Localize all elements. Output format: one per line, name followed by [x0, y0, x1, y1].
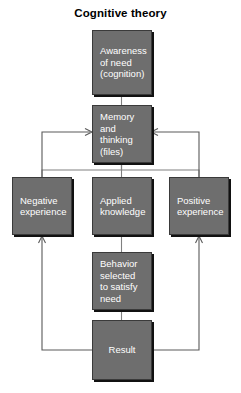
node-applied-label: Applied knowledge — [100, 195, 145, 218]
node-memory-label: Memory and thinking (files) — [100, 111, 134, 157]
node-result-label: Result — [109, 344, 136, 356]
node-applied-knowledge[interactable]: Applied knowledge — [92, 177, 152, 235]
node-memory-and-thinking[interactable]: Memory and thinking (files) — [92, 105, 152, 163]
cognitive-theory-diagram: Cognitive theory Awareness of need (cogn… — [0, 0, 241, 393]
node-behavior-label: Behavior selected to satisfy need — [100, 258, 138, 304]
node-positive-label: Positive experience — [177, 195, 223, 218]
node-negative-experience[interactable]: Negative experience — [12, 177, 72, 235]
arrowhead-negative-bottom — [39, 236, 46, 243]
node-positive-experience[interactable]: Positive experience — [169, 177, 229, 235]
edge-result-to-negative — [42, 237, 92, 350]
edge-memory-to-negative — [42, 163, 122, 177]
arrowhead-positive-bottom — [196, 236, 203, 243]
edge-memory-to-positive — [122, 163, 200, 177]
edge-negative-to-memory — [42, 132, 90, 177]
diagram-title: Cognitive theory — [0, 7, 241, 19]
node-awareness-label: Awareness of need (cognition) — [100, 45, 147, 80]
edge-positive-to-memory — [153, 132, 199, 177]
arrowhead-memory-right — [151, 129, 158, 136]
node-behavior-selected[interactable]: Behavior selected to satisfy need — [92, 252, 152, 310]
node-result[interactable]: Result — [92, 320, 152, 380]
edge-result-to-positive — [151, 237, 199, 350]
arrowhead-memory-left — [85, 129, 92, 136]
node-negative-label: Negative experience — [20, 195, 66, 218]
node-awareness-of-need[interactable]: Awareness of need (cognition) — [92, 30, 152, 95]
